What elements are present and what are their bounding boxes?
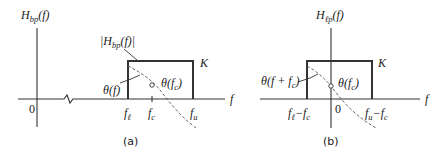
panel-b-phase-center-label: θ(fc) [338, 76, 359, 92]
panel-a-phase-center-label: θ(fc) [161, 76, 182, 92]
panel-a: Hbp(f) 0 K |Hbp(f)| θ(f) θ(fc) fℓ fc fu … [18, 8, 235, 148]
panel-a-x-axis-label: f [230, 92, 235, 106]
panel-a-gain-label: K [199, 56, 209, 70]
panel-a-caption: (a) [123, 135, 138, 148]
panel-b-x-axis-label: f [425, 92, 430, 106]
panel-b-tick-f-lower: fℓ−fc [288, 106, 310, 122]
panel-b-phase-label: θ(f + fc) [261, 74, 299, 90]
panel-a-tick-f-upper: fu [190, 106, 198, 122]
panel-a-origin-label: 0 [29, 102, 35, 116]
panel-a-tick-f-center: fc [148, 106, 155, 122]
panel-a-magnitude-leader [124, 49, 137, 60]
panel-b-origin-label: 0 [335, 102, 341, 116]
bandpass-lowpass-diagram: Hbp(f) 0 K |Hbp(f)| θ(f) θ(fc) fℓ fc fu … [0, 0, 447, 155]
panel-a-center-marker [150, 83, 154, 87]
panel-b: Hℓp(f) K θ(f + fc) θ(fc) 0 fℓ−fc fu−fc f… [260, 8, 430, 148]
panel-b-center-marker [329, 84, 333, 88]
panel-a-phase-label: θ(f) [103, 83, 120, 97]
panel-a-phase-leader [120, 75, 140, 83]
panel-b-caption: (b) [323, 135, 339, 148]
panel-a-magnitude-label: |Hbp(f)| [100, 34, 135, 50]
panel-b-gain-label: K [377, 56, 387, 70]
panel-a-y-axis-label: Hbp(f) [20, 8, 50, 24]
panel-b-tick-f-upper: fu−fc [365, 106, 388, 122]
panel-a-tick-f-lower: fℓ [124, 106, 131, 122]
panel-b-y-axis-label: Hℓp(f) [315, 8, 344, 24]
